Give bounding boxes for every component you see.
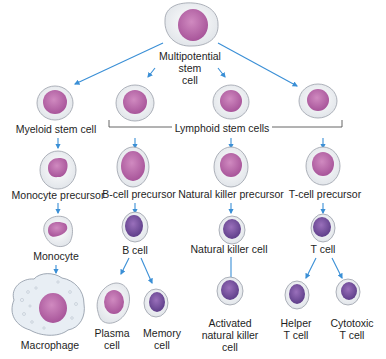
label-b-precursor: B-cell precursor [102, 188, 176, 200]
label-line: Multipotential [159, 50, 221, 62]
label-activated-nk: Activated natural killer cell [202, 317, 259, 353]
label-line: cell [202, 341, 259, 353]
cell-memory [144, 289, 168, 317]
label-monocyte: Monocyte [33, 250, 79, 262]
cell-nk [219, 216, 245, 244]
cell-monocyte [44, 216, 73, 246]
label-line: stem [159, 62, 221, 74]
label-helper-t: Helper T cell [281, 317, 312, 341]
cell-myeloid-stem [37, 86, 73, 120]
label-nk-cell: Natural killer cell [190, 243, 267, 255]
cell-lymphoid-stem-b [116, 85, 154, 121]
label-line: natural killer [202, 329, 259, 341]
cell-t-precursor [306, 147, 340, 185]
cell-t [311, 214, 335, 242]
label-monocyte-precursor: Monocyte precursor [12, 189, 105, 201]
label-t-cell: T cell [311, 243, 336, 255]
cell-helper-t [285, 281, 309, 309]
label-macrophage: Macrophage [21, 339, 79, 351]
label-nk-precursor: Natural killer precursor [178, 188, 284, 200]
label-line: Cytotoxic [330, 317, 373, 329]
label-line: Plasma [94, 327, 129, 339]
label-b-cell: B cell [122, 244, 148, 256]
label-cytotoxic-t: Cytotoxic T cell [330, 317, 373, 341]
cell-plasma [97, 283, 129, 323]
lineage-diagram: Multipotential stem cell Myeloid stem ce… [0, 0, 386, 359]
cell-cytotoxic-t [336, 279, 360, 305]
label-plasma-cell: Plasma cell [94, 327, 129, 351]
label-myeloid-stem: Myeloid stem cell [16, 123, 97, 135]
label-t-precursor: T-cell precursor [289, 188, 361, 200]
label-line: Helper [281, 317, 312, 329]
label-multipotential: Multipotential stem cell [159, 50, 221, 86]
label-line: cell [143, 339, 181, 351]
label-line: Activated [202, 317, 259, 329]
cell-b [122, 212, 148, 242]
cell-nk-precursor [214, 147, 248, 187]
cell-activated-nk [217, 277, 243, 305]
label-line: Memory [143, 327, 181, 339]
cell-multipotential [165, 3, 218, 46]
label-line: T cell [281, 329, 312, 341]
label-memory-cell: Memory cell [143, 327, 181, 351]
cell-monocyte-precursor [40, 151, 76, 189]
label-line: cell [159, 74, 221, 86]
label-line: T cell [330, 329, 373, 341]
cell-macrophage [12, 274, 84, 336]
label-line: cell [94, 339, 129, 351]
cell-lymphoid-stem-t [299, 84, 337, 118]
label-lymphoid-stem-cells: Lymphoid stem cells [173, 122, 272, 134]
cell-b-precursor [117, 147, 149, 187]
cell-lymphoid-stem-nk [213, 85, 249, 119]
